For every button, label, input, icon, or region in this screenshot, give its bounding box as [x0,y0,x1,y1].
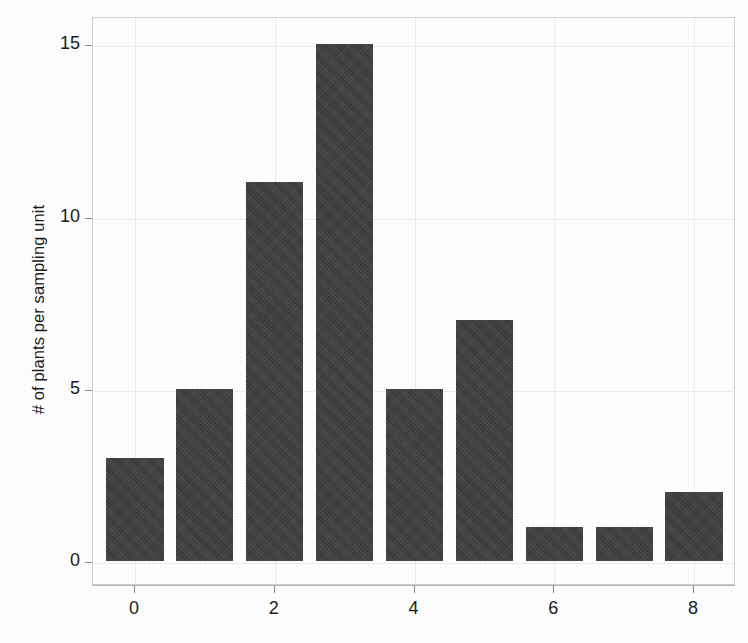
y-tick-mark [85,45,92,46]
gridline-vertical [554,18,555,584]
x-tick-label: 6 [528,598,578,619]
y-tick-label: 15 [34,33,80,54]
bar [665,492,722,561]
y-tick-label: 5 [34,378,80,399]
y-tick-mark [85,218,92,219]
y-tick-mark [85,562,92,563]
x-tick-mark [414,585,415,593]
bar [246,182,303,561]
y-tick-mark [85,390,92,391]
bar-chart-figure: # of plants per sampling unit 051015 024… [0,0,748,643]
bar [596,527,653,561]
bar [456,320,513,561]
y-axis-tick-labels: 051015 [22,0,80,643]
x-tick-label: 4 [389,598,439,619]
x-tick-mark [553,585,554,593]
x-tick-mark [274,585,275,593]
gridline-horizontal [93,219,734,220]
bar [526,527,583,561]
y-tick-label: 10 [34,206,80,227]
bar [106,458,163,561]
x-tick-mark [134,585,135,593]
bar [386,389,443,561]
x-tick-mark [693,585,694,593]
bar [176,389,233,561]
gridline-horizontal [93,46,734,47]
x-tick-label: 8 [668,598,718,619]
x-tick-label: 2 [249,598,299,619]
gridline-horizontal [93,563,734,564]
plot-area [92,17,735,585]
x-tick-label: 0 [109,598,159,619]
y-tick-label: 0 [34,550,80,571]
bar [316,44,373,561]
